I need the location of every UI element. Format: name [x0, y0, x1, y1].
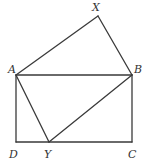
label-d: D — [8, 148, 18, 161]
segment-by — [49, 75, 132, 142]
label-b: B — [133, 63, 142, 76]
segment-ax — [16, 16, 98, 75]
segment-xb — [98, 16, 132, 75]
segments — [16, 16, 132, 142]
label-a: A — [7, 63, 16, 76]
geometry-diagram: X A B D Y C — [0, 0, 142, 166]
label-y: Y — [44, 148, 53, 161]
label-c: C — [128, 148, 137, 161]
label-x: X — [91, 1, 101, 14]
segment-ya — [16, 75, 49, 142]
vertex-labels: X A B D Y C — [7, 1, 142, 161]
